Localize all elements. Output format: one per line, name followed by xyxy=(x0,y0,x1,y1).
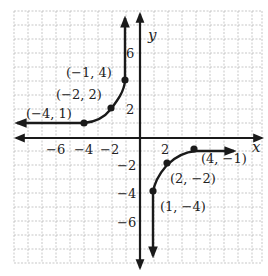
y-tick-label: 2 xyxy=(126,102,134,117)
y-tick-label: 6 xyxy=(126,46,134,61)
x-tick-label: −2 xyxy=(100,142,119,157)
graph: x y −6 −4 −2 2 6 2 −2 −4 −6 (−4, 1) (−2,… xyxy=(0,0,268,276)
point-marker xyxy=(163,159,170,166)
y-axis-label: y xyxy=(147,26,157,44)
x-axis-label: x xyxy=(252,138,261,156)
x-tick-label: −4 xyxy=(74,142,93,157)
point-label: (2, −2) xyxy=(170,171,216,186)
point-marker xyxy=(121,76,128,83)
point-label: (−1, 4) xyxy=(66,65,112,80)
point-marker xyxy=(190,145,197,152)
y-tick-label: −4 xyxy=(117,186,136,201)
point-label: (−2, 2) xyxy=(56,87,102,102)
point-marker xyxy=(107,104,114,111)
point-marker xyxy=(80,119,87,126)
y-tick-label: −6 xyxy=(117,215,136,230)
point-label: (4, −1) xyxy=(201,151,247,166)
x-tick-label: 2 xyxy=(161,142,169,157)
x-tick-label: −6 xyxy=(46,142,65,157)
point-label: (−4, 1) xyxy=(26,106,72,121)
y-tick-label: −2 xyxy=(117,158,136,173)
point-marker xyxy=(149,187,156,194)
point-label: (1, −4) xyxy=(160,199,206,214)
